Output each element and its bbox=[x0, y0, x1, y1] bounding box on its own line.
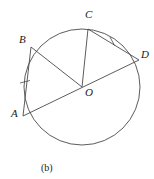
vertex-label-c: C bbox=[85, 9, 92, 20]
vertex-label-o: O bbox=[85, 87, 93, 98]
geometry-figure: A B C D O (b) bbox=[0, 0, 154, 179]
vertex-label-a: A bbox=[11, 108, 18, 119]
radius-bo bbox=[31, 47, 82, 87]
radius-co bbox=[82, 29, 88, 87]
circle-diagram-svg bbox=[0, 0, 154, 179]
chord-cd bbox=[88, 29, 139, 60]
tick-mark-ab bbox=[20, 81, 30, 84]
vertex-label-b: B bbox=[19, 34, 26, 45]
figure-caption: (b) bbox=[41, 163, 53, 173]
vertex-label-d: D bbox=[141, 49, 149, 60]
diameter-ad bbox=[23, 60, 139, 116]
